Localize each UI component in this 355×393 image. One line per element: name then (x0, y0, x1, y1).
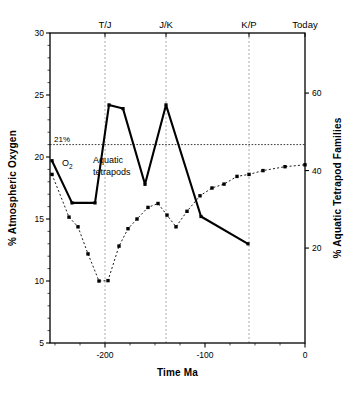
series-1-marker-16 (222, 182, 225, 185)
series-1-marker-6 (117, 244, 120, 247)
plot-frame (50, 33, 305, 343)
aquatic-series-label-line1: Aquatic (93, 155, 124, 165)
series-1-marker-8 (135, 217, 138, 220)
y2-tick-label-20: 20 (312, 243, 322, 253)
oxygen-series-label: O2 (62, 158, 73, 170)
series-1-marker-13 (185, 210, 188, 213)
series-1-marker-10 (156, 202, 159, 205)
series-0-marker-0 (50, 159, 53, 162)
series-1-marker-21 (303, 163, 306, 166)
x-tick-label--200: -200 (96, 350, 113, 360)
series-1-marker-17 (235, 175, 238, 178)
series-1-marker-3 (86, 252, 89, 255)
oxygen-tetrapod-chart: T/JJ/KK/PToday21%51015202530204060-200-1… (0, 0, 355, 393)
series-1-marker-9 (146, 206, 149, 209)
series-1-marker-2 (76, 225, 79, 228)
series-1-marker-20 (283, 165, 286, 168)
y2-axis-title: % Aquatic Tetrapod Families (332, 117, 343, 258)
y-tick-label-20: 20 (35, 152, 45, 162)
series-1-marker-15 (210, 186, 213, 189)
aquatic-series-label-line2: tetrapods (93, 167, 131, 177)
y2-tick-label-40: 40 (312, 166, 322, 176)
series-1-marker-5 (106, 279, 109, 282)
series-0-marker-2 (93, 201, 96, 204)
y-tick-label-25: 25 (35, 90, 45, 100)
event-label-K-P: K/P (241, 19, 256, 30)
series-0-marker-3 (107, 103, 110, 106)
x-tick-label-0: 0 (303, 350, 308, 360)
y-tick-label-30: 30 (35, 28, 45, 38)
series-1-marker-0 (50, 173, 53, 176)
series-1-marker-1 (67, 215, 70, 218)
series-1-marker-7 (126, 227, 129, 230)
series-1-marker-19 (261, 169, 264, 172)
series-1-marker-4 (97, 279, 100, 282)
figure-container: T/JJ/KK/PToday21%51015202530204060-200-1… (0, 0, 355, 393)
series-1-marker-18 (247, 173, 250, 176)
y-tick-label-5: 5 (39, 338, 44, 348)
x-axis-title: Time Ma (157, 367, 198, 378)
event-label-T-J: T/J (98, 19, 111, 30)
series-1-marker-12 (174, 225, 177, 228)
series-line-1 (52, 165, 305, 281)
series-0-marker-7 (199, 215, 202, 218)
series-0-marker-1 (70, 201, 73, 204)
series-0-marker-5 (143, 183, 146, 186)
y-axis-title: % Atmospheric Oxygen (7, 130, 18, 246)
y2-tick-label-60: 60 (312, 88, 322, 98)
series-1-marker-11 (165, 213, 168, 216)
series-line-0 (52, 105, 248, 244)
series-1-marker-14 (198, 194, 201, 197)
series-0-marker-6 (164, 103, 167, 106)
series-0-marker-4 (121, 107, 124, 110)
y-tick-label-15: 15 (35, 214, 45, 224)
reference-line-label: 21% (54, 135, 70, 144)
y-tick-label-10: 10 (35, 276, 45, 286)
event-label-Today: Today (292, 19, 318, 30)
series-0-marker-8 (246, 242, 249, 245)
event-label-J-K: J/K (159, 19, 173, 30)
x-tick-label--100: -100 (196, 350, 213, 360)
